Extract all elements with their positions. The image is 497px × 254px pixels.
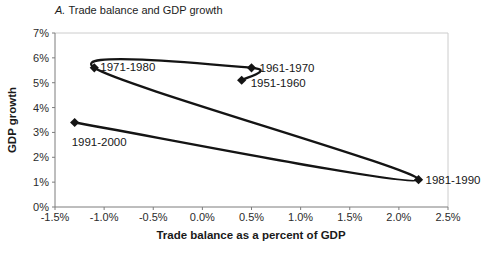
data-point-marker	[237, 76, 246, 85]
y-tick-label: 1%	[33, 176, 49, 188]
x-axis-title: Trade balance as a percent of GDP	[156, 229, 346, 241]
x-tick-label: 1.5%	[337, 211, 362, 223]
data-point-marker	[247, 63, 256, 72]
chart-canvas: -1.5%-1.0%-0.5%0.0%0.5%1.0%1.5%2.0%2.5%0…	[0, 0, 497, 254]
y-tick-label: 3%	[33, 126, 49, 138]
x-tick-label: -1.0%	[90, 211, 119, 223]
x-tick-label: 2.5%	[435, 211, 460, 223]
x-tick-label: 0.5%	[239, 211, 264, 223]
x-tick-label: 1.0%	[288, 211, 313, 223]
y-axis-title: GDP growth	[6, 87, 18, 153]
x-tick-label: -0.5%	[139, 211, 168, 223]
chart-panel: A.Trade balance and GDP growth -1.5%-1.0…	[0, 0, 497, 254]
x-tick-label: 2.0%	[386, 211, 411, 223]
data-point-label: 1981-1990	[426, 174, 481, 186]
data-point-label: 1961-1970	[260, 62, 315, 74]
y-tick-label: 5%	[33, 77, 49, 89]
y-tick-label: 0%	[33, 201, 49, 213]
data-curve	[75, 59, 419, 181]
y-tick-label: 6%	[33, 52, 49, 64]
data-point-label: 1991-2000	[72, 136, 127, 148]
y-tick-label: 4%	[33, 102, 49, 114]
x-tick-label: 0.0%	[190, 211, 215, 223]
data-point-label: 1951-1960	[251, 77, 306, 89]
data-point-marker	[70, 118, 79, 127]
data-point-label: 1971-1980	[100, 61, 155, 73]
y-tick-label: 2%	[33, 151, 49, 163]
y-tick-label: 7%	[33, 27, 49, 39]
